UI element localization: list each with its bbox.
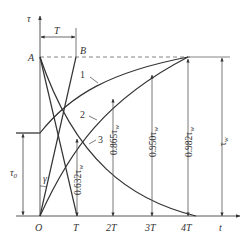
t-interval-label: T xyxy=(54,25,61,36)
diagram-svg: τ t O A B T 1 2 3 γ τ0 T 2T 3T 4T 0.632τ… xyxy=(0,0,252,241)
t-axis-label: t xyxy=(219,222,222,233)
curve-1-leader xyxy=(90,77,98,83)
annotation-0632: 0.632τw xyxy=(73,164,85,195)
tick-4T: 4T xyxy=(181,222,193,233)
diagram-canvas: τ t O A B T 1 2 3 γ τ0 T 2T 3T 4T 0.632τ… xyxy=(0,0,252,241)
origin-label: O xyxy=(35,222,42,233)
tick-T: T xyxy=(73,222,80,233)
annotation-0950: 0.950τw xyxy=(148,126,160,157)
curve-3-leader xyxy=(89,140,96,144)
annotation-0982: 0.982τw xyxy=(184,126,196,157)
curve-2-label: 2 xyxy=(80,109,85,120)
curve-1 xyxy=(16,57,188,133)
gamma-angle-arc xyxy=(40,186,47,187)
point-B-label: B xyxy=(80,45,86,56)
tick-3T: 3T xyxy=(144,222,157,233)
tau-axis-label: τ xyxy=(27,13,31,24)
tau0-dimension xyxy=(16,133,40,215)
curve-3-label: 3 xyxy=(98,134,103,145)
tick-2T: 2T xyxy=(106,222,118,233)
curve-2-leader xyxy=(89,116,97,120)
annotation-tau-w: τw xyxy=(218,136,230,146)
tau0-label: τ0 xyxy=(10,167,18,180)
curve-1-label: 1 xyxy=(80,69,85,80)
point-A-label: A xyxy=(27,52,35,63)
annotation-0865: 0.865τw xyxy=(109,124,121,155)
